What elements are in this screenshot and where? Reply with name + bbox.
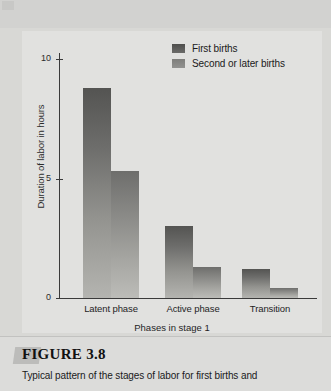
bar-transition-first-births	[242, 269, 270, 298]
bars-layer	[22, 31, 322, 333]
x-label-latent-phase: Latent phase	[67, 303, 155, 314]
legend-label-second-or-later-births: Second or later births	[192, 58, 285, 69]
chart-legend: First births Second or later births	[172, 43, 285, 73]
bar-latent-phase-second-or-later-births	[111, 171, 139, 298]
x-axis-title: Phases in stage 1	[22, 322, 322, 333]
legend-item-second-or-later-births: Second or later births	[172, 58, 285, 69]
legend-item-first-births: First births	[172, 43, 285, 54]
legend-swatch-first-births	[172, 44, 185, 53]
legend-swatch-second-or-later-births	[172, 59, 185, 68]
page-top-margin	[0, 0, 331, 28]
figure-caption-text: Typical pattern of the stages of labor f…	[22, 370, 322, 382]
textbook-page: 0510 Duration of labor in hours Latent p…	[0, 0, 331, 391]
figure-caption-block: FIGURE 3.8 Typical pattern of the stages…	[0, 336, 331, 391]
figure-number: FIGURE 3.8	[22, 346, 106, 363]
x-label-transition: Transition	[226, 303, 314, 314]
bar-transition-second-or-later-births	[270, 288, 298, 298]
bar-chart: 0510 Duration of labor in hours Latent p…	[22, 31, 322, 333]
page-corner-mark	[2, 1, 14, 10]
x-label-active-phase: Active phase	[149, 303, 237, 314]
figure-panel: 0510 Duration of labor in hours Latent p…	[22, 31, 322, 333]
bar-active-phase-second-or-later-births	[193, 267, 221, 298]
legend-label-first-births: First births	[192, 43, 237, 54]
bar-latent-phase-first-births	[83, 88, 111, 298]
bar-active-phase-first-births	[165, 226, 193, 298]
